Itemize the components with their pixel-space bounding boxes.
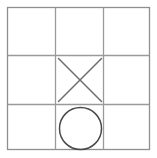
cell-middle-left[interactable]: [8, 56, 55, 104]
tic-tac-toe-container: [0, 0, 157, 158]
cell-bottom-center[interactable]: [56, 105, 103, 149]
cell-top-left[interactable]: [8, 8, 55, 55]
cell-top-center[interactable]: [56, 8, 103, 55]
cell-bottom-right[interactable]: [104, 105, 149, 149]
cell-top-right[interactable]: [104, 8, 149, 55]
cell-bottom-left[interactable]: [8, 105, 55, 149]
cell-middle-center[interactable]: [56, 56, 103, 104]
cell-middle-right[interactable]: [104, 56, 149, 104]
